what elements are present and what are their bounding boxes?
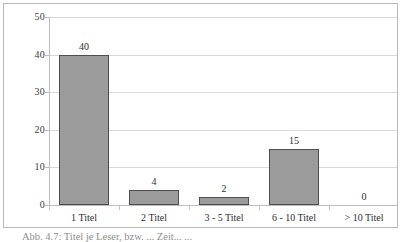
x-axis-tick-mark xyxy=(119,206,120,210)
x-axis-tick-mark xyxy=(189,206,190,210)
x-axis-line xyxy=(49,205,398,206)
bar[interactable] xyxy=(199,197,249,205)
y-axis-tick-label: 40 xyxy=(5,50,45,60)
y-axis-tick-mark xyxy=(45,92,49,93)
bar[interactable] xyxy=(129,190,179,205)
x-axis-tick-mark xyxy=(49,206,50,210)
x-axis-tick-label: 2 Titel xyxy=(119,212,189,224)
gridline xyxy=(49,17,398,18)
bar[interactable] xyxy=(269,149,319,205)
bar[interactable] xyxy=(59,55,109,205)
bar-value-label: 40 xyxy=(54,41,114,52)
y-axis-tick-label: 20 xyxy=(5,125,45,135)
bar-value-label: 0 xyxy=(334,191,394,202)
chart-frame: 01020304050 4042150 1 Titel2 Titel3 - 5 … xyxy=(3,3,398,228)
y-axis-tick-mark xyxy=(45,130,49,131)
x-axis-tick-mark xyxy=(329,206,330,210)
figure: 01020304050 4042150 1 Titel2 Titel3 - 5 … xyxy=(0,0,405,242)
y-axis-line xyxy=(49,17,50,206)
y-axis-tick-mark xyxy=(45,17,49,18)
bar-value-label: 15 xyxy=(264,135,324,146)
y-axis-tick-label: 10 xyxy=(5,162,45,172)
x-axis-tick-label: 3 - 5 Titel xyxy=(189,212,259,224)
x-axis-tick-label: > 10 Titel xyxy=(329,212,398,224)
y-axis-tick-label: 50 xyxy=(5,12,45,22)
x-axis-tick-label: 1 Titel xyxy=(49,212,119,224)
bar-value-label: 2 xyxy=(194,183,254,194)
figure-caption: Abb. 4.7: Titel je Leser, bzw. ... Zeit.… xyxy=(22,231,402,242)
y-axis-tick-label: 0 xyxy=(5,200,45,210)
bar-value-label: 4 xyxy=(124,176,184,187)
x-axis-tick-label: 6 - 10 Titel xyxy=(259,212,329,224)
y-axis-tick-mark xyxy=(45,55,49,56)
y-axis-tick-mark xyxy=(45,167,49,168)
y-axis-ticks: 01020304050 xyxy=(4,4,45,228)
x-axis-tick-mark xyxy=(259,206,260,210)
y-axis-tick-label: 30 xyxy=(5,87,45,97)
